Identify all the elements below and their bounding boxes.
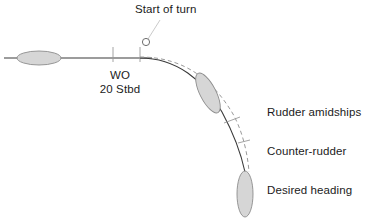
rudder-amidships-label: Rudder amidships	[267, 105, 361, 119]
desired-heading-label: Desired heading	[267, 183, 352, 197]
ship-hull-final	[237, 171, 253, 217]
start-of-turn-circle	[142, 38, 149, 45]
wheel-over-label-line1: WO	[83, 68, 157, 82]
start-of-turn-leader-line	[148, 20, 160, 39]
ship-hull-initial	[17, 51, 61, 65]
wheel-over-label: WO 20 Stbd	[83, 68, 157, 96]
wheel-over-label-line2: 20 Stbd	[83, 82, 157, 96]
ship-hull-midturn	[191, 70, 225, 116]
start-of-turn-label: Start of turn	[135, 2, 196, 16]
turn-diagram-canvas: Start of turn WO 20 Stbd Rudder amidship…	[0, 0, 368, 219]
counter-rudder-label: Counter-rudder	[267, 144, 346, 158]
